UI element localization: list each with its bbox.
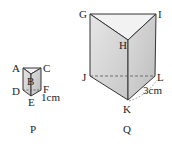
- dimension-label-q: 3cm: [143, 84, 162, 96]
- vertex-label-k: K: [123, 103, 131, 115]
- vertex-label-e: E: [28, 96, 35, 108]
- vertex-label-i: I: [158, 8, 162, 20]
- vertex-label-h: H: [119, 39, 127, 51]
- vertex-label-a: A: [12, 62, 20, 74]
- caption-p: P: [30, 123, 36, 135]
- prisms-diagram: A C B D F E 1cm P G I H J L K 3cm Q: [0, 0, 172, 146]
- vertex-label-b: B: [27, 75, 34, 87]
- vertex-label-c: C: [43, 62, 50, 74]
- caption-q: Q: [123, 123, 131, 135]
- vertex-label-l: L: [157, 71, 164, 83]
- dimension-label-p: 1cm: [41, 91, 60, 103]
- vertex-label-j: J: [82, 71, 87, 83]
- vertex-label-d: D: [12, 85, 20, 97]
- vertex-label-g: G: [79, 8, 87, 20]
